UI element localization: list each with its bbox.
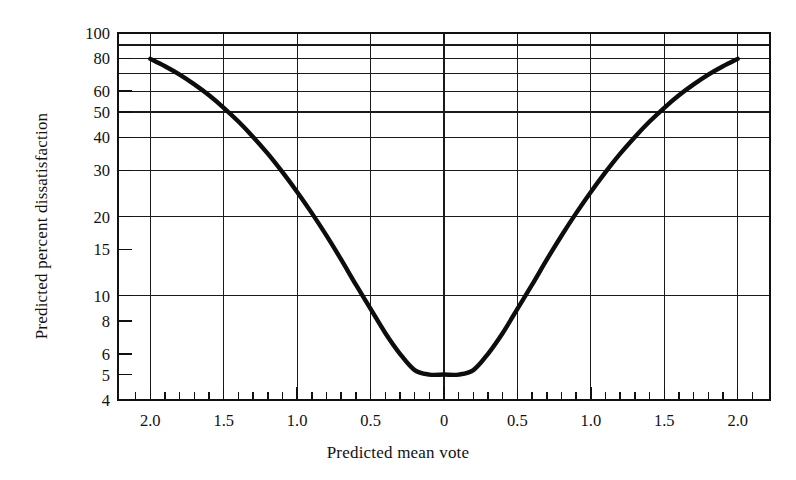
y-tick-label: 15	[94, 240, 111, 259]
x-tick-label: 1.0	[287, 411, 308, 430]
x-tick-label: 0	[440, 411, 448, 430]
y-tick-label: 60	[94, 82, 111, 101]
y-tick-label: 6	[102, 345, 110, 364]
y-tick-label: 100	[85, 24, 110, 43]
chart-plot-area: 100806050403020151086542.01.51.00.500.51…	[0, 0, 796, 480]
y-tick-label: 50	[94, 103, 111, 122]
x-tick-label: 0.5	[507, 411, 528, 430]
x-tick-label: 1.5	[213, 411, 234, 430]
y-tick-label: 80	[94, 49, 111, 68]
y-tick-label: 8	[102, 312, 110, 331]
x-tick-label: 1.0	[581, 411, 602, 430]
y-tick-label: 30	[94, 161, 111, 180]
y-tick-label: 40	[94, 128, 111, 147]
y-axis-title: Predicted percent dissatisfaction	[32, 16, 52, 436]
x-tick-label: 1.5	[654, 411, 675, 430]
x-tick-label: 0.5	[360, 411, 381, 430]
y-tick-label: 20	[94, 208, 111, 227]
x-tick-label: 2.0	[727, 411, 748, 430]
grid-layer	[118, 33, 770, 400]
y-tick-label: 5	[102, 366, 110, 385]
x-tick-label: 2.0	[140, 411, 161, 430]
x-axis-title: Predicted mean vote	[0, 443, 796, 463]
y-tick-label: 4	[102, 391, 110, 410]
y-tick-label: 10	[94, 287, 111, 306]
chart-figure: 100806050403020151086542.01.51.00.500.51…	[0, 0, 796, 480]
